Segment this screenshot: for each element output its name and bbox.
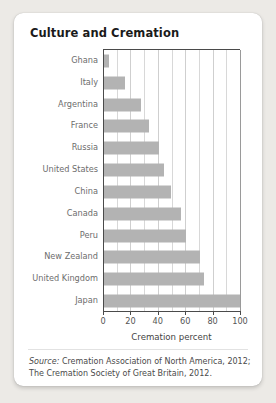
y-label-china: China [75, 186, 98, 196]
x-tick-20 [130, 311, 131, 315]
bar-japan [104, 295, 240, 308]
page-title: Culture and Cremation [30, 26, 179, 40]
bar-canada [104, 207, 181, 220]
bar-france [104, 120, 149, 133]
bar-italy [104, 76, 125, 89]
source-label: Source: [29, 357, 59, 366]
x-tick-label-20: 20 [125, 316, 135, 326]
y-label-france: France [71, 120, 98, 130]
y-label-japan: Japan [75, 295, 98, 305]
bar-new-zealand [104, 251, 200, 264]
y-label-argentina: Argentina [58, 99, 98, 109]
x-tick-100 [240, 311, 241, 315]
page-background: Culture and Cremation GhanaItalyArgentin… [0, 0, 276, 403]
source-line-1: Cremation Association of North America, … [59, 357, 250, 366]
x-axis-line [103, 311, 240, 312]
chart-card: Culture and Cremation GhanaItalyArgentin… [14, 13, 262, 386]
x-axis-title: Cremation percent [103, 332, 240, 342]
source-divider [28, 349, 248, 350]
x-tick-label-60: 60 [180, 316, 190, 326]
bar-argentina [104, 98, 141, 111]
plot-area [103, 49, 240, 311]
source-line-2: The Cremation Society of Great Britain, … [29, 369, 212, 378]
bar-china [104, 185, 171, 198]
y-label-new-zealand: New Zealand [44, 251, 98, 261]
y-label-peru: Peru [80, 230, 98, 240]
x-tick-80 [213, 311, 214, 315]
x-tick-label-40: 40 [153, 316, 163, 326]
x-tick-40 [158, 311, 159, 315]
y-label-united-states: United States [43, 164, 98, 174]
y-label-united-kingdom: United Kingdom [32, 273, 98, 283]
x-tick-label-80: 80 [207, 316, 217, 326]
x-tick-label-100: 100 [232, 316, 248, 326]
bar-peru [104, 229, 186, 242]
gridline-90 [226, 50, 227, 311]
y-label-italy: Italy [80, 77, 98, 87]
x-tick-60 [185, 311, 186, 315]
chart-plot-wrapper: GhanaItalyArgentinaFranceRussiaUnited St… [14, 49, 262, 334]
gridline-100 [240, 50, 241, 311]
bar-russia [104, 142, 159, 155]
source-note: Source: Cremation Association of North A… [29, 356, 251, 379]
bar-united-states [104, 164, 164, 177]
y-label-ghana: Ghana [71, 55, 98, 65]
bar-ghana [104, 54, 109, 67]
bar-united-kingdom [104, 273, 204, 286]
gridline-80 [213, 50, 214, 311]
x-tick-0 [103, 311, 104, 315]
y-label-russia: Russia [72, 142, 98, 152]
y-label-canada: Canada [67, 208, 98, 218]
x-tick-label-0: 0 [100, 316, 105, 326]
y-axis-category-labels: GhanaItalyArgentinaFranceRussiaUnited St… [14, 49, 102, 311]
